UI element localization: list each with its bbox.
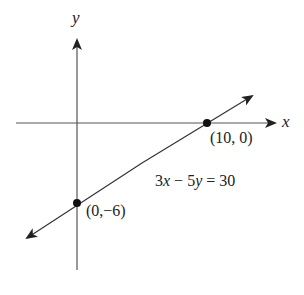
equation-rhs: = 30 <box>202 172 235 189</box>
equation-operator: − <box>170 172 187 189</box>
y-axis-label: y <box>72 8 80 28</box>
graph-line <box>27 163 142 238</box>
equation-coef-a: 3 <box>155 172 163 189</box>
x-intercept-label: (10, 0) <box>210 129 253 147</box>
y-intercept-point <box>73 199 81 207</box>
x-intercept-point <box>203 119 211 127</box>
equation-label: 3x − 5y = 30 <box>155 172 235 190</box>
equation-coef-b: 5 <box>187 172 195 189</box>
x-axis-label: x <box>282 112 290 132</box>
y-intercept-label: (0,−6) <box>86 202 126 220</box>
coordinate-plane <box>0 0 304 295</box>
